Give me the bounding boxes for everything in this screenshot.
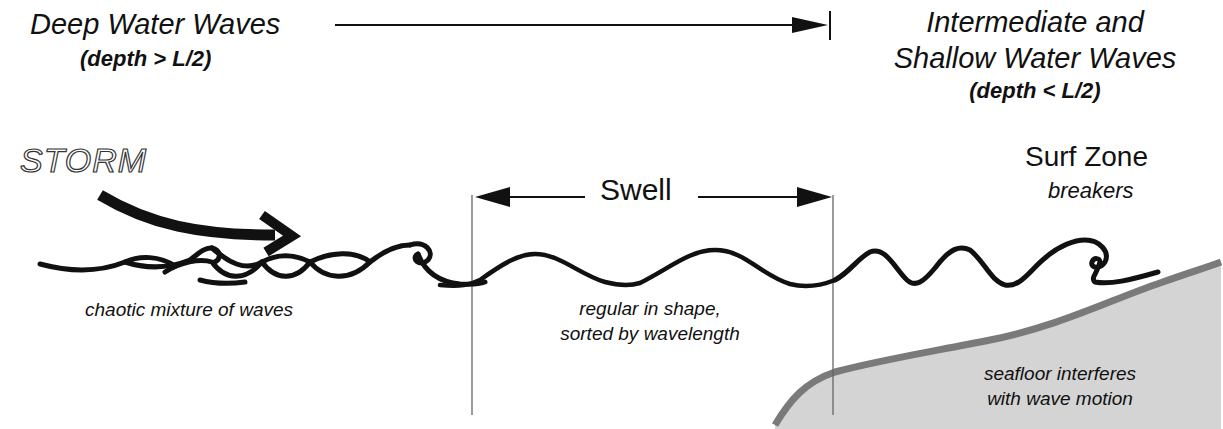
deep-water-condition: (depth > L/2) <box>80 48 211 70</box>
swell-caption-line1: regular in shape, <box>520 296 780 321</box>
chaotic-waves <box>40 244 485 285</box>
seafloor-caption-line1: seafloor interferes <box>925 361 1195 386</box>
storm-label: STORM <box>20 143 147 177</box>
wave-diagram: Deep Water Waves (depth > L/2) Intermedi… <box>0 0 1223 429</box>
shallow-water-title-line2: Shallow Water Waves <box>850 40 1220 76</box>
surf-zone-title: Surf Zone <box>1025 143 1148 171</box>
seafloor-caption: seafloor interferes with wave motion <box>925 361 1195 411</box>
shallow-water-condition: (depth < L/2) <box>850 80 1220 102</box>
storm-caption: chaotic mixture of waves <box>85 300 293 319</box>
swell-label: Swell <box>600 175 672 205</box>
surf-zone-subtitle: breakers <box>1048 180 1134 202</box>
deep-water-title: Deep Water Waves <box>30 10 280 39</box>
shallow-water-title: Intermediate and Shallow Water Waves <box>850 4 1220 76</box>
swell-caption: regular in shape, sorted by wavelength <box>520 296 780 346</box>
seafloor-caption-line2: with wave motion <box>925 386 1195 411</box>
breaking-waves <box>835 240 1158 285</box>
deep-water-range-arrow <box>335 11 830 40</box>
swell-caption-line2: sorted by wavelength <box>520 321 780 346</box>
swell-waves <box>440 250 855 286</box>
shallow-water-title-line1: Intermediate and <box>850 4 1220 40</box>
storm-arrow <box>100 195 292 252</box>
